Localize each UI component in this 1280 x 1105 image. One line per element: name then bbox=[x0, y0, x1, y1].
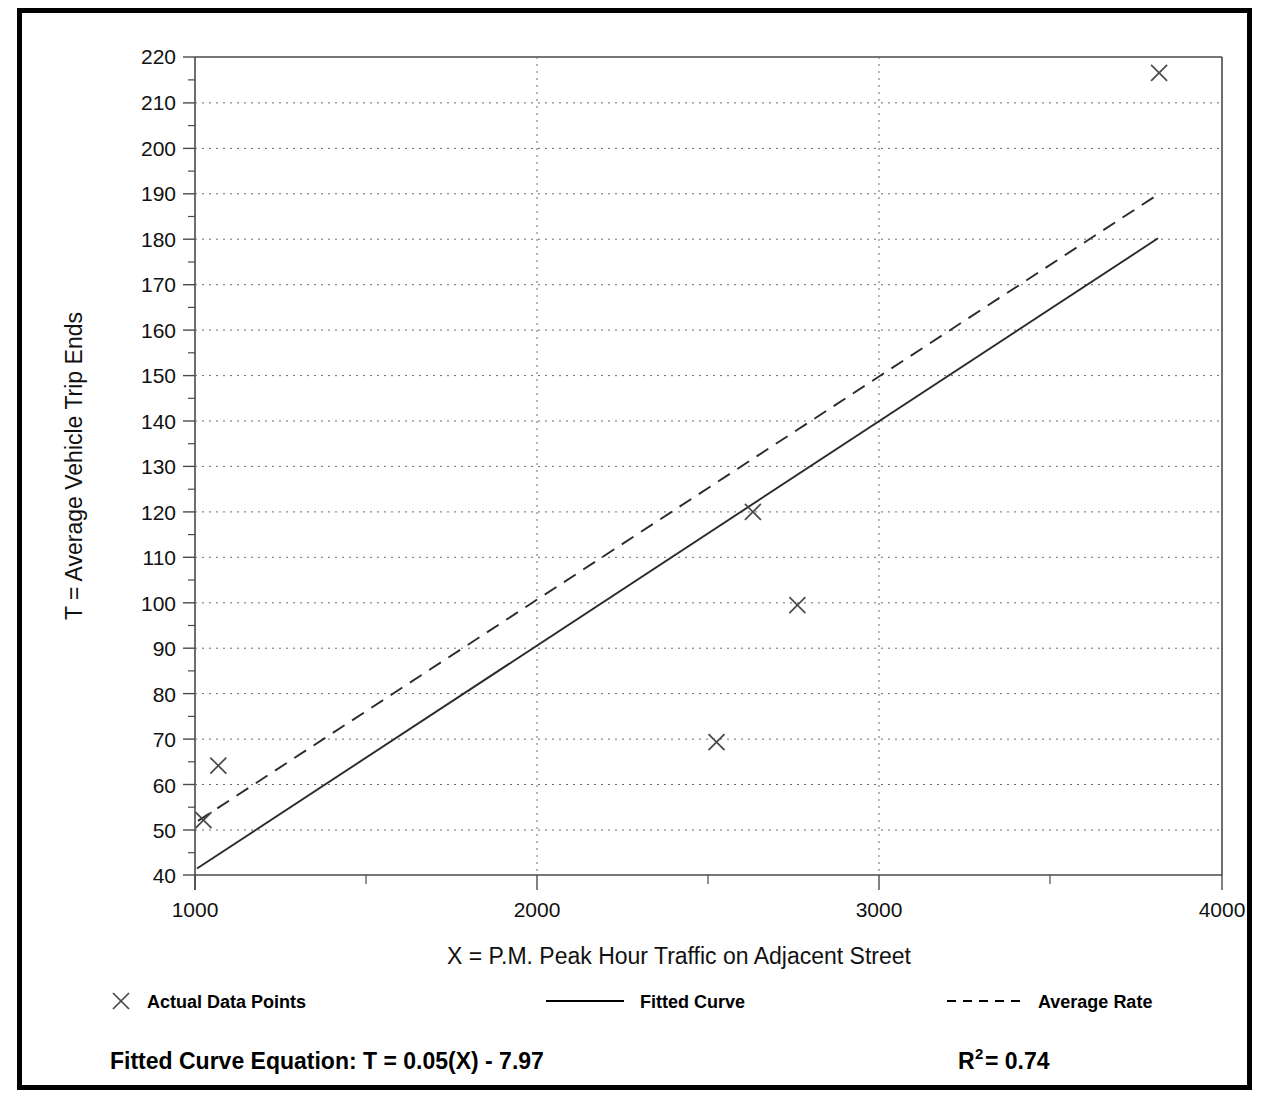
y-axis-ticks bbox=[183, 57, 195, 875]
fitted-curve-equation: Fitted Curve Equation: T = 0.05(X) - 7.9… bbox=[110, 1048, 544, 1074]
x-tick-label: 1000 bbox=[172, 898, 219, 921]
x-axis-title: X = P.M. Peak Hour Traffic on Adjacent S… bbox=[447, 943, 911, 969]
series-fitted-curve bbox=[197, 238, 1158, 868]
legend-label: Actual Data Points bbox=[147, 992, 306, 1012]
y-tick-label: 80 bbox=[153, 683, 176, 706]
y-tick-label: 90 bbox=[153, 637, 176, 660]
y-tick-label: 40 bbox=[153, 864, 176, 887]
y-tick-label: 60 bbox=[153, 774, 176, 797]
x-tick-label: 4000 bbox=[1199, 898, 1246, 921]
r-squared-value: = 0.74 bbox=[985, 1048, 1050, 1074]
x-axis-tick-labels: 1000 2000 3000 4000 bbox=[172, 898, 1246, 921]
r-squared-exponent: 2 bbox=[975, 1045, 983, 1062]
legend-item-fitted-curve[interactable]: Fitted Curve bbox=[546, 992, 745, 1012]
data-point-marker bbox=[1151, 65, 1167, 81]
y-tick-label: 170 bbox=[141, 273, 176, 296]
series-average-rate bbox=[198, 194, 1159, 821]
y-tick-label: 190 bbox=[141, 182, 176, 205]
legend-item-average-rate[interactable]: Average Rate bbox=[947, 992, 1152, 1012]
y-tick-label: 160 bbox=[141, 319, 176, 342]
chart-footer: Fitted Curve Equation: T = 0.05(X) - 7.9… bbox=[110, 1045, 1050, 1074]
y-axis-tick-labels: 220 210 200 190 180 170 160 150 140 130 … bbox=[141, 45, 176, 887]
y-tick-label: 200 bbox=[141, 137, 176, 160]
chart-legend: Actual Data Points Fitted Curve Average … bbox=[113, 992, 1152, 1012]
y-tick-label: 150 bbox=[141, 364, 176, 387]
data-point-marker bbox=[745, 504, 761, 520]
data-point-marker bbox=[709, 734, 725, 750]
series-actual-data-points bbox=[196, 65, 1168, 828]
y-tick-label: 70 bbox=[153, 728, 176, 751]
y-tick-label: 50 bbox=[153, 819, 176, 842]
r-squared-base: R bbox=[958, 1048, 975, 1074]
y-axis-title: T = Average Vehicle Trip Ends bbox=[61, 312, 87, 620]
x-axis-ticks bbox=[195, 875, 1222, 890]
x-tick-label: 2000 bbox=[514, 898, 561, 921]
y-tick-label: 120 bbox=[141, 501, 176, 524]
y-tick-label: 100 bbox=[141, 592, 176, 615]
y-tick-label: 130 bbox=[141, 455, 176, 478]
x-tick-label: 3000 bbox=[856, 898, 903, 921]
plot-frame bbox=[195, 57, 1222, 890]
y-tick-label: 110 bbox=[143, 546, 176, 569]
legend-item-actual-data-points[interactable]: Actual Data Points bbox=[113, 992, 306, 1012]
horizontal-gridlines bbox=[195, 103, 1222, 830]
chart-figure: 220 210 200 190 180 170 160 150 140 130 … bbox=[0, 0, 1280, 1105]
legend-label: Fitted Curve bbox=[640, 992, 745, 1012]
data-point-marker bbox=[789, 597, 805, 613]
legend-label: Average Rate bbox=[1038, 992, 1152, 1012]
y-tick-label: 180 bbox=[141, 228, 176, 251]
y-tick-label: 140 bbox=[141, 410, 176, 433]
y-tick-label: 220 bbox=[141, 45, 176, 68]
r-squared-annotation: R 2 = 0.74 bbox=[958, 1045, 1050, 1074]
x-marker-icon bbox=[113, 993, 129, 1009]
y-tick-label: 210 bbox=[141, 91, 176, 114]
data-point-marker bbox=[210, 758, 226, 774]
